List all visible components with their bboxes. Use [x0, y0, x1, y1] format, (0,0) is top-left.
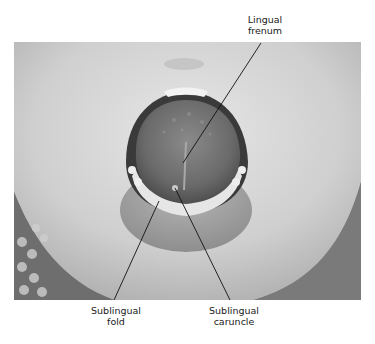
- label-lingual-frenum: Lingual frenum: [240, 14, 290, 36]
- label-line1: Lingual: [240, 14, 290, 25]
- label-line2: fold: [84, 316, 148, 327]
- label-line2: caruncle: [202, 316, 266, 327]
- label-line2: frenum: [240, 25, 290, 36]
- label-line1: Sublingual: [202, 305, 266, 316]
- label-sublingual-fold: Sublingual fold: [84, 305, 148, 327]
- anatomy-photo: [14, 42, 361, 300]
- label-line1: Sublingual: [84, 305, 148, 316]
- label-sublingual-caruncle: Sublingual caruncle: [202, 305, 266, 327]
